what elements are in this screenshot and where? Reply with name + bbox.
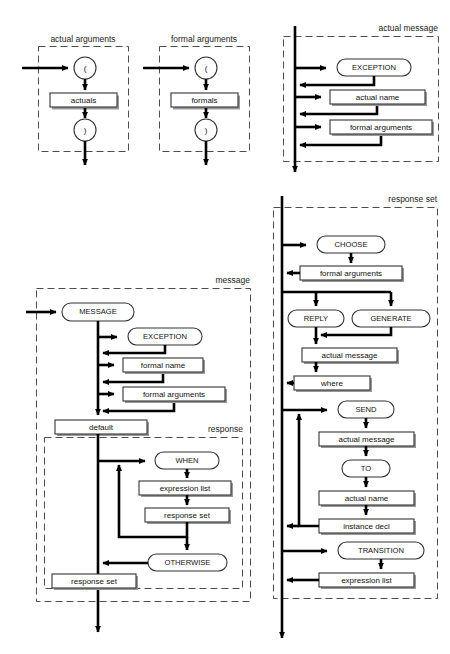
node-label-response-set: response set	[164, 511, 211, 520]
node-label-default: default	[89, 423, 114, 432]
node-label-transition: TRANSITION	[358, 546, 404, 555]
panel-label-response: response	[208, 424, 243, 434]
edge-formal-name-return	[103, 374, 163, 382]
edge-formal-arguments-return	[103, 403, 174, 411]
syntax-diagram-svg: actual arguments ( actuals ) formal argu…	[0, 0, 450, 654]
panel-label-response-set: response set	[388, 194, 437, 204]
panel-label-formal-arguments: formal arguments	[171, 34, 237, 44]
node-label-exception: EXCEPTION	[352, 63, 396, 72]
node-label-rparen: )	[205, 126, 208, 135]
panel-label-actual-arguments: actual arguments	[50, 34, 115, 44]
edge-exception-return	[300, 76, 374, 85]
node-label-when: WHEN	[175, 456, 198, 465]
node-label-response-set-bottom: response set	[71, 577, 118, 586]
node-label-rparen: )	[84, 126, 87, 135]
node-label-actual-name: actual name	[345, 494, 389, 503]
panel-label-message: message	[216, 275, 251, 285]
panel-label-actual-message: actual message	[378, 23, 438, 33]
node-label-generate: GENERATE	[370, 314, 411, 323]
node-label-instance-decl: instance decl	[343, 522, 390, 531]
node-label-formal-arguments: formal arguments	[350, 123, 412, 132]
edge-actual-name-return	[300, 106, 377, 114]
edge-exception-return	[103, 345, 165, 353]
node-label-lparen: (	[205, 64, 208, 73]
node-label-lparen: (	[84, 64, 87, 73]
node-label-actual-message-2: actual message	[338, 435, 395, 444]
node-label-formals: formals	[191, 96, 217, 105]
node-label-expression-list: expression list	[341, 576, 392, 585]
panel-formal-arguments: formal arguments ( formals )	[143, 34, 250, 165]
node-label-actual-name: actual name	[356, 93, 400, 102]
edge-loop-to-send	[299, 414, 319, 526]
panel-message: message MESSAGE EXCEPTION formal name fo…	[26, 275, 251, 632]
node-label-choose: CHOOSE	[335, 240, 368, 249]
node-label-reply: REPLY	[304, 314, 328, 323]
node-label-exception: EXCEPTION	[143, 332, 187, 341]
edge-loop-to-when	[119, 465, 187, 537]
edge-formal-arguments-return	[300, 136, 381, 145]
node-label-otherwise: OTHERWISE	[165, 558, 211, 567]
diagram-canvas: actual arguments ( actuals ) formal argu…	[0, 0, 450, 654]
node-label-where: where	[320, 379, 343, 388]
node-label-formal-name: formal name	[141, 361, 186, 370]
subpanel-response: response WHEN expression list response s…	[45, 424, 244, 590]
node-label-expression-list: expression list	[160, 484, 211, 493]
node-label-actual-message-1: actual message	[321, 351, 378, 360]
panel-actual-message: actual message EXCEPTION actual name for…	[284, 23, 439, 172]
node-label-actuals: actuals	[71, 96, 96, 105]
node-label-formal-arguments: formal arguments	[143, 390, 205, 399]
node-label-message: MESSAGE	[79, 307, 117, 316]
node-label-formal-arguments: formal arguments	[320, 269, 382, 278]
node-label-send: SEND	[355, 405, 377, 414]
panel-actual-arguments: actual arguments ( actuals )	[22, 34, 129, 165]
node-label-to: TO	[361, 464, 372, 473]
panel-response-set: response set CHOOSE formal arguments REP…	[274, 194, 438, 638]
edge-generate-merge	[321, 327, 391, 335]
